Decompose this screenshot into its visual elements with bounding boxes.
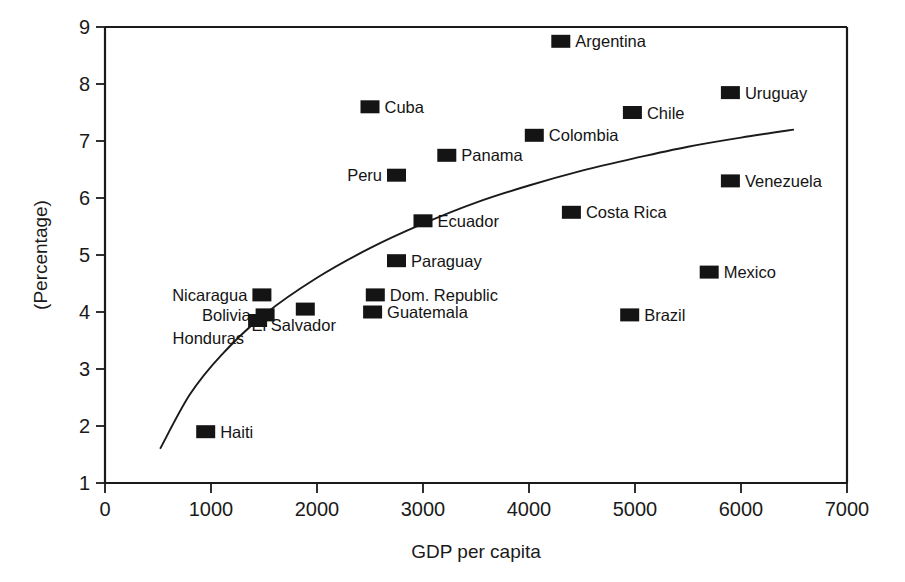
point-marker[interactable] [437,149,456,162]
point-marker[interactable] [551,35,570,48]
point-label: Dom. Republic [390,286,498,304]
y-tick-label: 8 [79,73,90,95]
x-axis-title: GDP per capita [411,541,541,562]
y-tick-label: 7 [79,130,90,152]
point-label: Panama [461,146,523,164]
point-label: Uruguay [745,84,808,102]
point-label: Cuba [385,98,425,116]
y-axis-title: (Percentage) [30,200,51,310]
data-point[interactable]: Panama [437,146,523,164]
x-tick-label: 7000 [825,498,870,520]
data-points: ArgentinaUruguayCubaChileColombiaPanamaP… [172,32,823,440]
y-tick-label: 5 [79,244,90,266]
point-label: Colombia [549,126,620,144]
data-point[interactable]: Brazil [620,306,685,324]
point-marker[interactable] [387,169,406,182]
data-point[interactable]: Haiti [196,423,253,441]
point-label: Bolivia [202,306,251,324]
data-point[interactable]: Costa Rica [562,203,668,221]
data-point[interactable]: Mexico [700,263,776,281]
point-marker[interactable] [363,306,382,319]
point-marker[interactable] [525,129,544,142]
x-tick-label: 6000 [719,498,764,520]
point-label: Venezuela [745,172,823,190]
point-label: Guatemala [387,303,469,321]
point-marker[interactable] [721,86,740,99]
point-marker[interactable] [700,266,719,279]
point-label: Mexico [724,263,776,281]
x-tick-label: 3000 [401,498,446,520]
data-point[interactable]: Venezuela [721,172,823,190]
data-point[interactable]: Cuba [361,98,425,116]
data-point[interactable]: Nicaragua [172,286,271,304]
y-tick-label: 6 [79,187,90,209]
data-point[interactable]: Paraguay [387,252,482,270]
data-point[interactable]: Chile [623,104,685,122]
point-label: Argentina [575,32,646,50]
point-marker[interactable] [562,206,581,219]
x-tick-label: 0 [99,498,110,520]
y-tick-label: 9 [79,16,90,38]
data-point[interactable]: Peru [347,166,406,184]
x-tick-label: 1000 [189,498,234,520]
y-tick-label: 1 [79,472,90,494]
point-marker[interactable] [387,254,406,267]
data-point[interactable]: Guatemala [363,303,469,321]
data-point[interactable]: Argentina [551,32,646,50]
data-point[interactable]: Colombia [525,126,620,144]
point-marker[interactable] [620,308,639,321]
scatter-plot-canvas: 12345678901000200030004000500060007000 A… [0,0,905,582]
data-point[interactable]: Uruguay [721,84,808,102]
point-marker[interactable] [252,288,271,301]
y-tick-label: 3 [79,358,90,380]
point-marker[interactable] [623,106,642,119]
point-label: Peru [347,166,382,184]
point-marker[interactable] [414,214,433,227]
point-marker[interactable] [721,174,740,187]
x-tick-label: 5000 [613,498,658,520]
point-label: Honduras [173,329,245,347]
point-label: Chile [647,104,685,122]
point-label: Brazil [644,306,685,324]
data-point[interactable]: Ecuador [414,212,500,230]
point-marker[interactable] [296,303,315,316]
chart-figure: 12345678901000200030004000500060007000 A… [0,0,905,582]
point-marker[interactable] [248,314,267,327]
point-label: Costa Rica [586,203,668,221]
data-point[interactable]: Dom. Republic [366,286,498,304]
point-marker[interactable] [196,425,215,438]
point-label: Ecuador [438,212,500,230]
point-label: Haiti [220,423,253,441]
point-label: Paraguay [411,252,482,270]
point-marker[interactable] [366,288,385,301]
x-tick-label: 2000 [295,498,340,520]
x-tick-label: 4000 [507,498,552,520]
y-tick-label: 4 [79,301,90,323]
y-tick-label: 2 [79,415,90,437]
point-label: Nicaragua [172,286,248,304]
point-marker[interactable] [361,100,380,113]
